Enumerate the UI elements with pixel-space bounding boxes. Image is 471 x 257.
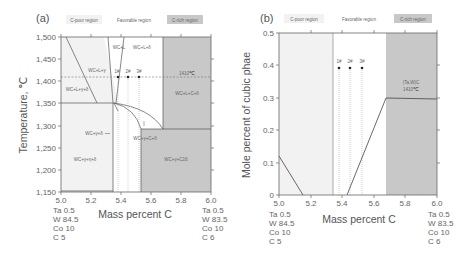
y-axis-label-b: Mole percent of cubic phae <box>240 52 252 178</box>
sample-1-point <box>117 76 120 79</box>
legend-favorable: Favorable region <box>117 18 151 23</box>
composition-left: W 84.5 <box>53 215 79 224</box>
y-tick: 0.5 <box>263 29 275 38</box>
composition-right: Ta 0.5 <box>428 210 450 219</box>
panel-b: (b) C-poor region Favorable region C-ric… <box>240 12 454 246</box>
y-tick: 0.3 <box>263 94 275 103</box>
x-tick: 5.6 <box>145 196 157 205</box>
composition-right: C 6 <box>202 233 215 242</box>
panel-a-label: (a) <box>36 12 49 24</box>
phase-wc-g-c16: WC+γ+C16 <box>164 157 188 162</box>
phase-wc-g-e-d: WC+γ+η+δ <box>74 157 97 162</box>
x-tick: 5.2 <box>305 199 317 208</box>
legend-c-rich: C-rich region <box>400 17 426 22</box>
sample-3-point <box>361 67 364 70</box>
annotation-cubic-phase: (Ta,W)C <box>403 80 420 85</box>
x-axis-label-a: Mass percent C <box>98 208 172 220</box>
x-tick: 5.8 <box>175 196 187 205</box>
phase-wc-l-d: WC+L+δ <box>133 45 151 50</box>
favorable-region <box>333 33 386 195</box>
sample-2-label: 2# <box>347 59 353 64</box>
c-poor-region-lower <box>61 103 113 192</box>
phase-wc-g-c-d: WC+γ+C+δ <box>133 136 157 141</box>
phase-wc-l-g: WC+L+γ <box>88 68 106 73</box>
y-tick: 1,400 <box>36 77 57 86</box>
x-tick: 5.0 <box>273 199 285 208</box>
y-tick: 1,500 <box>36 33 57 42</box>
composition-left: C 5 <box>269 237 282 246</box>
composition-left: C 5 <box>53 233 66 242</box>
composition-right: Co 10 <box>428 228 450 237</box>
c-rich-region-upper <box>163 37 211 129</box>
composition-right: C 6 <box>428 237 441 246</box>
y-tick: 1,350 <box>36 99 57 108</box>
composition-left: Co 10 <box>53 224 75 233</box>
x-tick: 5.6 <box>368 199 380 208</box>
legend-c-rich: C-rich region <box>172 18 198 23</box>
figure: (a) C-poor region Favorable region C-ric… <box>0 0 471 257</box>
y-tick: 1,250 <box>36 144 57 153</box>
sample-2-point <box>127 76 130 79</box>
annotation-temperature: 1410℃ <box>403 87 419 92</box>
y-tick: 1,450 <box>36 55 57 64</box>
sample-1-label: 1# <box>336 59 342 64</box>
legend-c-poor: C-poor region <box>290 17 318 22</box>
x-tick: 5.4 <box>336 199 348 208</box>
sample-3-label: 3# <box>136 69 142 74</box>
isotherm-label: 1410℃ <box>179 71 195 76</box>
y-tick: 0.1 <box>263 159 275 168</box>
x-tick: 5.4 <box>115 196 127 205</box>
composition-right: W 83.5 <box>428 219 454 228</box>
legend-c-poor: C-poor region <box>70 18 98 23</box>
phase-wc-l-g-d: WC+L+γ+δ <box>66 87 89 92</box>
composition-right: Co 10 <box>202 224 224 233</box>
sample-3-point <box>138 76 141 79</box>
x-axis-label-b: Mass percent C <box>322 213 396 225</box>
legend-favorable: Favorable region <box>342 17 376 22</box>
phase-wc-l-c-d: WC+L+C+δ <box>175 91 199 96</box>
x-tick: 5.8 <box>399 199 411 208</box>
composition-right: Ta 0.5 <box>202 206 224 215</box>
composition-right: W 83.5 <box>202 215 228 224</box>
y-tick: 1,300 <box>36 122 57 131</box>
c-rich-region <box>386 33 437 195</box>
x-tick: 6.0 <box>431 199 443 208</box>
x-tick: 6.0 <box>205 196 217 205</box>
sample-1-label: 1# <box>114 69 120 74</box>
y-axis-label-a: Temperature, ℃ <box>17 77 29 154</box>
y-tick: 1,200 <box>36 166 57 175</box>
panel-a: (a) C-poor region Favorable region C-ric… <box>17 12 228 242</box>
sample-3-label: 3# <box>359 59 365 64</box>
x-tick: 5.0 <box>55 196 67 205</box>
composition-left: W 84.5 <box>269 219 295 228</box>
y-tick: 0.4 <box>263 61 275 70</box>
composition-left: Ta 0.5 <box>269 210 291 219</box>
phase-wc-l: WC+L <box>113 45 126 50</box>
sample-1-point <box>338 67 341 70</box>
phase-wc-g-d: WC+γ+δ <box>85 131 103 136</box>
composition-left: Co 10 <box>269 228 291 237</box>
composition-left: Ta 0.5 <box>53 206 75 215</box>
y-tick: 0.2 <box>263 126 275 135</box>
c-poor-region <box>279 33 333 195</box>
sample-2-label: 2# <box>125 69 131 74</box>
sample-2-point <box>349 67 352 70</box>
panel-b-label: (b) <box>260 12 273 24</box>
y-tick: 1,150 <box>36 188 57 197</box>
x-tick: 5.2 <box>85 196 97 205</box>
